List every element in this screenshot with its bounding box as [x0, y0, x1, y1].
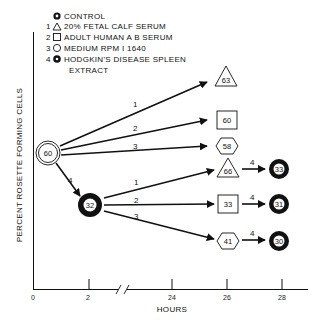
edge-hd-h3	[104, 211, 214, 239]
legend-label-4b: EXTRACT	[69, 66, 108, 75]
node-c3: 58	[216, 138, 238, 154]
x-tick-0: 0	[31, 294, 35, 301]
edge-control-c1	[60, 82, 207, 146]
svg-text:41: 41	[224, 237, 232, 246]
square-icon	[54, 34, 61, 41]
edge-label-h1b: 4	[250, 158, 255, 167]
edge-label-h2: 2	[134, 196, 139, 205]
legend-number-3: 3	[46, 44, 51, 53]
svg-text:31: 31	[275, 200, 283, 209]
y-axis-label: PERCENT ROSETTE FORMING CELLS	[15, 88, 24, 242]
svg-text:66: 66	[224, 167, 232, 176]
x-tick-26: 26	[223, 294, 231, 301]
svg-text:63: 63	[222, 76, 230, 85]
legend-control-icon	[53, 12, 60, 19]
node-h1b: 33	[269, 159, 289, 179]
legend-label-2: ADULT HUMAN A B SERUM	[64, 33, 173, 42]
axes: 0 2 24 26 28 HOURS PERCENT ROSETTE FORMI…	[15, 32, 308, 314]
x-tick-28: 28	[278, 294, 286, 301]
x-tick-24: 24	[168, 294, 176, 301]
legend-label-3: MEDIUM RPM I 1640	[64, 44, 146, 53]
svg-text:60: 60	[223, 116, 231, 125]
edge-label-h2b: 4	[250, 193, 255, 202]
edge-label-c1: 1	[133, 100, 138, 109]
edge-label-hd: 4	[68, 176, 73, 185]
edge-label-h3b: 4	[250, 229, 255, 238]
legend-number-4: 4	[46, 55, 51, 64]
node-control: 60	[36, 141, 60, 165]
svg-text:33: 33	[275, 165, 283, 174]
legend-number-2: 2	[46, 33, 51, 42]
svg-text:32: 32	[86, 201, 94, 210]
black-circle-icon	[53, 55, 61, 63]
legend-label-1: 20% FETAL CALF SERUM	[64, 22, 166, 31]
triangle-icon	[53, 23, 61, 30]
legend-number-1: 1	[46, 22, 51, 31]
edge-label-c2: 2	[133, 124, 138, 133]
x-axis-label: HOURS	[157, 305, 187, 314]
svg-text:33: 33	[224, 200, 232, 209]
node-h2b: 31	[269, 194, 289, 214]
edge-hd-h1	[104, 170, 214, 198]
node-h1: 66	[217, 158, 239, 177]
legend-label-4: HODGKIN'S DISEASE SPLEEN	[64, 55, 186, 64]
hexagon-icon	[53, 44, 60, 51]
node-c2: 60	[217, 111, 237, 129]
svg-text:60: 60	[44, 149, 52, 158]
x-tick-2: 2	[86, 294, 90, 301]
legend-control-label: CONTROL	[64, 12, 105, 21]
rosette-chart: CONTROL 1 20% FETAL CALF SERUM 2 ADULT H…	[0, 0, 322, 323]
edge-label-c3: 3	[133, 142, 138, 151]
node-hd: 32	[78, 193, 102, 217]
edge-hd-h2	[104, 204, 214, 205]
edge-label-h1: 1	[134, 178, 139, 187]
node-h3b: 30	[269, 231, 289, 251]
node-c1: 63	[215, 66, 237, 86]
svg-text:30: 30	[275, 237, 283, 246]
node-h3: 41	[217, 233, 239, 249]
svg-text:58: 58	[223, 142, 231, 151]
legend: CONTROL 1 20% FETAL CALF SERUM 2 ADULT H…	[46, 12, 186, 75]
edge-label-h3: 3	[134, 212, 139, 221]
node-h2: 33	[218, 195, 238, 213]
